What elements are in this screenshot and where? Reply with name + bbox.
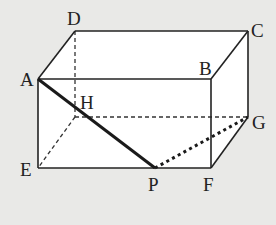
label-B: B — [199, 58, 212, 79]
label-G: G — [252, 112, 266, 133]
label-A: A — [20, 69, 34, 90]
prism-svg: D C A B H G E P F — [0, 0, 276, 225]
prism-diagram: D C A B H G E P F — [0, 0, 276, 225]
label-F: F — [203, 174, 214, 195]
label-C: C — [251, 20, 264, 41]
front-face — [38, 79, 211, 168]
label-E: E — [20, 159, 32, 180]
label-P: P — [148, 174, 159, 195]
label-D: D — [67, 8, 81, 29]
label-H: H — [80, 92, 94, 113]
